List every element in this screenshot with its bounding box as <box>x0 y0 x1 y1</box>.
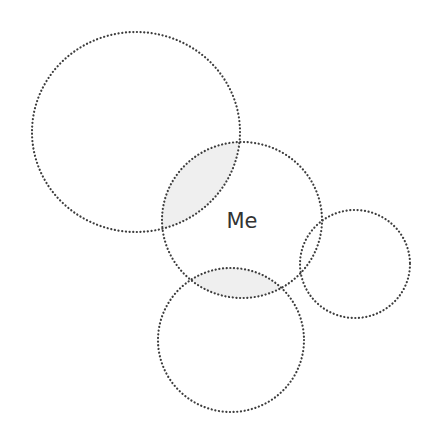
me-label: Me <box>226 209 257 233</box>
diagram-canvas: Me <box>0 0 429 435</box>
circle-right <box>300 210 410 318</box>
circle-outlines <box>32 32 410 412</box>
venn-diagram: Me <box>0 0 429 435</box>
